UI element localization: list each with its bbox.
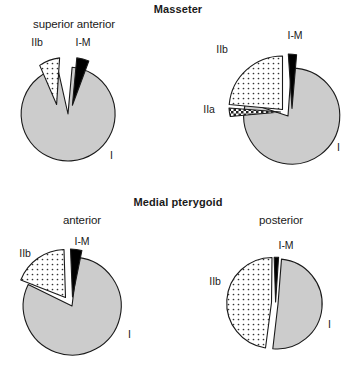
panel-medial-pterygoid-anterior: anterior IIb I-M I	[0, 212, 170, 380]
panel-subtitle-superior-anterior: superior anterior	[33, 18, 115, 30]
section-title-masseter: Masseter	[154, 3, 203, 15]
pie-chart-medial-pterygoid-posterior	[196, 212, 356, 380]
pie-slice-IIb	[227, 258, 272, 349]
slice-label-I: I	[328, 319, 331, 330]
slice-label-IM: I-M	[279, 240, 294, 251]
slice-label-IIb: IIb	[216, 44, 227, 55]
panel-subtitle-posterior: posterior	[259, 214, 303, 226]
pie-chart-masseter-deep	[196, 16, 356, 181]
slice-label-IM: I-M	[75, 236, 90, 247]
pie-slice-I	[273, 259, 322, 349]
slice-label-IM: I-M	[76, 37, 91, 48]
section-title-medial-pterygoid: Medial pterygoid	[134, 196, 223, 208]
pie-slice-IM	[274, 257, 278, 302]
pie-slice-I	[21, 67, 115, 161]
slice-label-IM: I-M	[288, 30, 303, 41]
slice-label-I: I	[128, 329, 131, 340]
panel-masseter-superior-anterior: superior anterior IIb I-M I	[0, 16, 160, 181]
figure-root: Masseter superior anterior IIb I-M I IIb…	[0, 0, 356, 380]
slice-label-I: I	[337, 142, 340, 153]
slice-label-IIa: IIa	[203, 104, 214, 115]
panel-subtitle-anterior: anterior	[63, 214, 101, 226]
panel-medial-pterygoid-posterior: posterior IIb I-M I	[196, 212, 356, 380]
pie-slice-IIb	[229, 56, 282, 110]
slice-label-IIb: IIb	[31, 37, 42, 48]
slice-label-I: I	[110, 150, 113, 161]
panel-masseter-deep: IIb IIa I-M I	[196, 16, 356, 181]
slice-label-IIb: IIb	[19, 248, 30, 259]
slice-label-IIb: IIb	[209, 276, 220, 287]
